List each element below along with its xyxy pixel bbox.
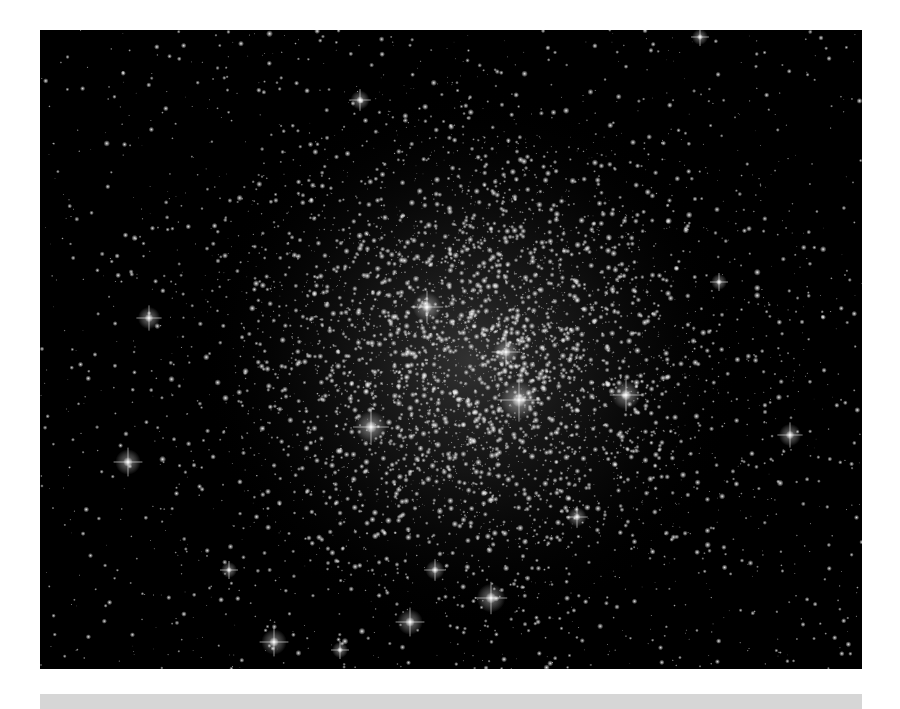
star-cluster-photo <box>40 30 862 669</box>
caption-bar <box>40 694 862 709</box>
star-field-canvas <box>40 30 862 669</box>
